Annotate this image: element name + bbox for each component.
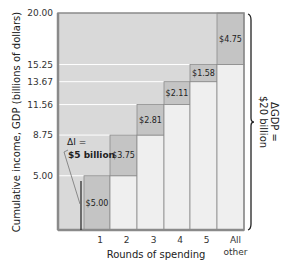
bar-value-label: $3.75 bbox=[112, 151, 135, 160]
delta-i-line1: ΔI = bbox=[67, 137, 86, 147]
bar-base bbox=[164, 105, 190, 230]
y-tick-label: 11.56 bbox=[27, 100, 53, 110]
bar-value-label: $2.81 bbox=[139, 116, 162, 125]
bar-value-label: $4.75 bbox=[219, 35, 242, 44]
bar-group: $1.58 bbox=[190, 65, 217, 230]
bar-value-label: $1.58 bbox=[192, 69, 215, 78]
y-tick-label: 13.67 bbox=[27, 77, 53, 87]
bar-base bbox=[190, 82, 217, 230]
y-axis-title: Cumulative income, GDP (billions of doll… bbox=[11, 12, 22, 232]
x-tick-label: 1 bbox=[97, 235, 103, 245]
delta-i-line2: $5 billion bbox=[68, 150, 115, 160]
y-tick-label: 20.00 bbox=[27, 8, 53, 18]
x-tick-label: other bbox=[224, 247, 248, 257]
x-tick-label: 3 bbox=[151, 235, 157, 245]
bar-group: $2.11 bbox=[164, 82, 190, 230]
x-tick-label: All bbox=[230, 235, 241, 245]
y-tick-labels: 5.008.7511.5613.6715.2520.00 bbox=[27, 8, 53, 181]
y-tick-label: 8.75 bbox=[33, 130, 53, 140]
bar-group: $4.75 bbox=[217, 13, 244, 230]
bar-base bbox=[137, 135, 164, 230]
x-tick-label: 5 bbox=[204, 235, 210, 245]
y-tick-label: 5.00 bbox=[33, 171, 53, 181]
y-tick-label: 15.25 bbox=[27, 60, 53, 70]
delta-gdp-line2: $20 billion bbox=[258, 96, 269, 148]
x-tick-label: 4 bbox=[177, 235, 183, 245]
x-tick-label: 2 bbox=[124, 235, 130, 245]
bar-base bbox=[110, 176, 137, 230]
bar-value-label: $5.00 bbox=[86, 199, 109, 208]
multiplier-chart: $5.00$3.75$2.81$2.11$1.58$4.75 5.008.751… bbox=[0, 0, 289, 273]
bar-group: $2.81 bbox=[137, 105, 164, 230]
bar-value-label: $2.11 bbox=[166, 89, 189, 98]
x-axis-title: Rounds of spending bbox=[107, 249, 206, 260]
bar-base bbox=[217, 65, 244, 230]
delta-gdp-brace bbox=[248, 14, 254, 230]
delta-gdp-line1: ΔGDP = bbox=[269, 102, 280, 142]
bar-group: $5.00 bbox=[84, 176, 110, 230]
